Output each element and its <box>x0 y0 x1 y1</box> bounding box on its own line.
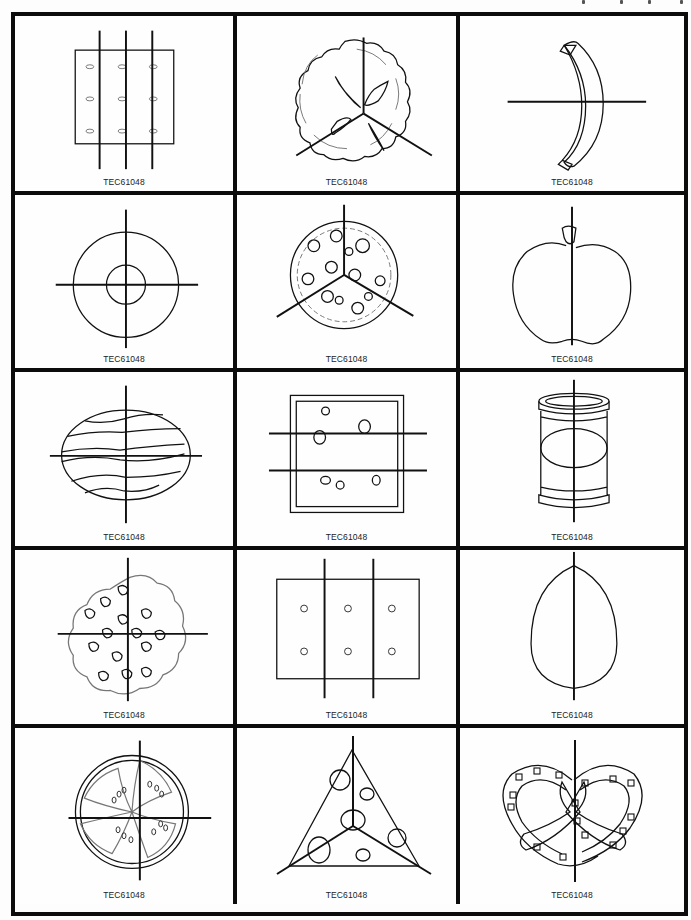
bread-holes <box>314 407 380 489</box>
card-cracker[interactable]: TEC61048 <box>15 16 237 195</box>
card-pie[interactable]: TEC61048 <box>237 16 460 195</box>
card-donut[interactable]: TEC61048 <box>15 195 237 372</box>
cracker-holes <box>301 605 396 655</box>
card-code: TEC61048 <box>237 710 456 720</box>
can-illustration <box>460 372 684 530</box>
cracker-holes <box>86 65 157 133</box>
card-graham-cracker[interactable]: TEC61048 <box>237 550 460 728</box>
card-watermelon[interactable]: TEC61048 <box>15 372 237 550</box>
card-banana[interactable]: TEC61048 <box>460 16 684 195</box>
graham-cracker-illustration <box>237 550 456 708</box>
cracker-illustration <box>15 16 233 175</box>
pretzel-illustration <box>460 728 684 888</box>
card-code: TEC61048 <box>15 532 233 542</box>
cheese-wedge-illustration <box>237 728 456 888</box>
card-apple[interactable]: TEC61048 <box>460 195 684 372</box>
cut-off-header-text <box>560 0 685 6</box>
cookie-illustration <box>15 550 233 708</box>
card-code: TEC61048 <box>460 354 684 364</box>
card-pizza[interactable]: TEC61048 <box>237 195 460 372</box>
salt-crystals <box>508 768 634 860</box>
card-code: TEC61048 <box>237 890 456 900</box>
banana-illustration <box>460 16 684 175</box>
sandwich-illustration <box>237 372 456 530</box>
watermelon-illustration <box>15 372 233 530</box>
card-code: TEC61048 <box>15 354 233 364</box>
card-can[interactable]: TEC61048 <box>460 372 684 550</box>
donut-illustration <box>15 195 233 352</box>
pie-illustration <box>237 16 456 175</box>
card-code: TEC61048 <box>237 532 456 542</box>
card-code: TEC61048 <box>460 890 684 900</box>
card-code: TEC61048 <box>15 710 233 720</box>
card-code: TEC61048 <box>460 532 684 542</box>
card-pretzel[interactable]: TEC61048 <box>460 728 684 904</box>
tomato-slice-illustration <box>15 728 233 888</box>
card-cookie[interactable]: TEC61048 <box>15 550 237 728</box>
egg-illustration <box>460 550 684 708</box>
card-code: TEC61048 <box>460 177 684 187</box>
card-code: TEC61048 <box>460 710 684 720</box>
card-code: TEC61048 <box>237 354 456 364</box>
card-cheese-wedge[interactable]: TEC61048 <box>237 728 460 904</box>
card-code: TEC61048 <box>15 177 233 187</box>
card-code: TEC61048 <box>237 177 456 187</box>
card-tomato-slice[interactable]: TEC61048 <box>15 728 237 904</box>
apple-illustration <box>460 195 684 352</box>
pizza-illustration <box>237 195 456 352</box>
card-egg[interactable]: TEC61048 <box>460 550 684 728</box>
card-code: TEC61048 <box>15 890 233 900</box>
card-sheet: TEC61048 TEC61048 TEC61048 <box>11 12 688 916</box>
card-sandwich[interactable]: TEC61048 <box>237 372 460 550</box>
